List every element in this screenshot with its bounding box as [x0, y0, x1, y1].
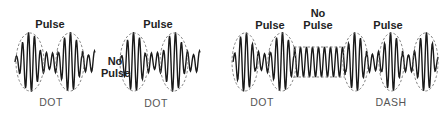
label-pulse-left-2: Pulse [138, 18, 178, 30]
label-pulse-left-1: Pulse [30, 18, 70, 30]
label-no-pulse-left: No Pulse [101, 55, 129, 79]
label-pulse-right-1: Pulse [250, 19, 290, 31]
label-dot-left-2: DOT [141, 97, 171, 109]
waveform-right [233, 32, 438, 92]
label-dot-right: DOT [247, 96, 277, 108]
label-dot-left-1: DOT [36, 96, 66, 108]
label-no-pulse-right-text: No Pulse [303, 7, 332, 31]
waveform-left-1 [15, 32, 95, 92]
label-pulse-right-2: Pulse [368, 19, 408, 31]
label-dash-right: DASH [371, 96, 411, 108]
label-no-pulse-right: No Pulse [302, 7, 334, 31]
label-no-pulse-left-text: No Pulse [101, 55, 130, 79]
